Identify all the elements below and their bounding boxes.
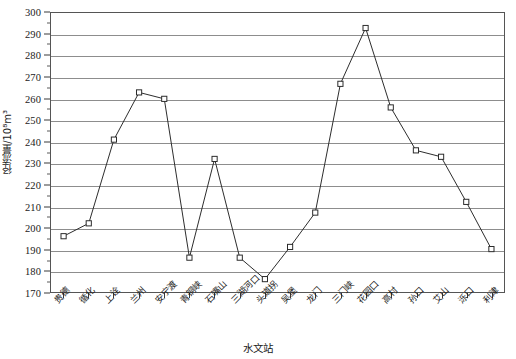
y-tick-label: 290	[25, 28, 41, 39]
data-point-marker	[287, 244, 292, 249]
y-tick-label: 170	[25, 288, 41, 299]
data-point-marker	[363, 25, 368, 30]
data-point-marker	[489, 246, 494, 251]
data-point-marker	[136, 90, 141, 95]
x-axis-tick-labels: 贵德循化上诠兰州安宁渡青铜峡石嘴山三湖河口头道拐吴堡龙门三门峡花园口高村孙口艾山…	[50, 298, 505, 338]
y-tick-label: 190	[25, 244, 41, 255]
data-point-marker	[86, 221, 91, 226]
y-tick-label: 260	[25, 93, 41, 104]
y-tick-label: 220	[25, 179, 41, 190]
data-series	[51, 13, 504, 292]
runoff-line-chart: 径流量/10⁸m³ 170180190200210220230240250260…	[0, 0, 516, 359]
y-tick-label: 230	[25, 158, 41, 169]
data-point-marker	[61, 234, 66, 239]
data-point-marker	[464, 199, 469, 204]
data-point-marker	[162, 96, 167, 101]
plot-area	[50, 12, 505, 293]
y-tick-label: 210	[25, 201, 41, 212]
y-axis: 1701801902002102202302402502602702802903…	[0, 12, 50, 293]
data-point-marker	[313, 210, 318, 215]
data-point-marker	[187, 255, 192, 260]
y-tick-label: 270	[25, 71, 41, 82]
data-point-marker	[338, 81, 343, 86]
data-point-marker	[111, 137, 116, 142]
data-point-marker	[262, 277, 267, 282]
y-tick-label: 280	[25, 50, 41, 61]
y-tick-label: 180	[25, 266, 41, 277]
data-point-marker	[388, 105, 393, 110]
data-point-marker	[438, 154, 443, 159]
data-point-marker	[212, 156, 217, 161]
y-tick-label: 200	[25, 223, 41, 234]
series-line	[64, 28, 492, 279]
y-tick-label: 300	[25, 7, 41, 18]
y-tick-label: 240	[25, 136, 41, 147]
data-point-marker	[413, 148, 418, 153]
data-point-marker	[237, 255, 242, 260]
y-tick-label: 250	[25, 115, 41, 126]
x-axis-title: 水文站	[0, 340, 516, 355]
